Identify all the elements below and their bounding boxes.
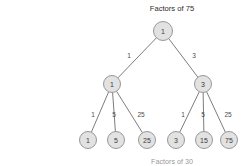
node-label: 15 (200, 137, 208, 144)
edge-label: 25 (137, 111, 145, 118)
node-group: 113152531575 (80, 22, 238, 149)
tree-node: 25 (139, 132, 156, 149)
diagram-title: Factors of 75 (150, 4, 194, 13)
edge-label: 3 (192, 52, 196, 59)
node-label: 1 (86, 137, 90, 144)
edge-label: 1 (181, 111, 185, 118)
node-label: 5 (114, 137, 118, 144)
tree-node: 3 (195, 76, 212, 93)
node-label: 25 (143, 137, 151, 144)
tree-node: 3 (168, 132, 185, 149)
tree-edge (118, 38, 157, 78)
edge-label: 5 (112, 111, 116, 118)
edge-label: 1 (127, 52, 131, 59)
factor-tree-diagram: 113152531575 1315251525 Factors of 75 Fa… (0, 0, 245, 165)
tree-node: 1 (154, 22, 173, 41)
tree-node: 1 (104, 76, 121, 93)
node-label: 3 (201, 81, 205, 88)
tree-graphic: 113152531575 1315251525 Factors of 75 Fa… (0, 0, 245, 165)
node-label: 3 (174, 137, 178, 144)
edge-label: 5 (201, 111, 205, 118)
tree-node: 15 (196, 132, 213, 149)
edge-label: 25 (224, 111, 232, 118)
tree-node: 5 (108, 132, 125, 149)
diagram-bottom-caption: Factors of 30 (151, 157, 193, 166)
tree-node: 75 (221, 132, 238, 149)
tree-edge (207, 92, 226, 133)
node-label: 75 (225, 137, 233, 144)
tree-node: 1 (80, 132, 97, 149)
node-label: 1 (161, 28, 165, 35)
edge-label: 1 (91, 111, 95, 118)
node-label: 1 (110, 81, 114, 88)
